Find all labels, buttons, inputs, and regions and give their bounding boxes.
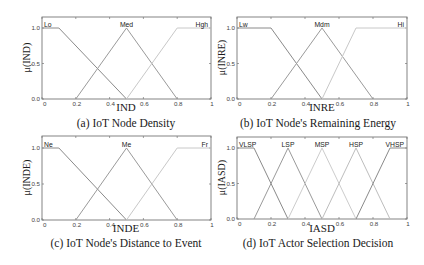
y-axis-label-c: μ(INDE) <box>21 148 32 208</box>
membership-line-vhsp <box>356 148 407 219</box>
caption-c: (c) IoT Node's Distance to Event <box>20 237 232 249</box>
series-label-vhsp: VHSP <box>385 141 404 148</box>
y-tick-label: 0.0 <box>226 215 235 222</box>
y-axis-label-a: μ(IND) <box>21 30 32 86</box>
y-axis-label-d: μ(IASD) <box>216 148 227 208</box>
x-axis-label-b: INRE <box>300 101 344 113</box>
plot-frame <box>237 137 407 219</box>
x-tick-label: 0.8 <box>370 220 379 227</box>
y-tick-label: 1.0 <box>226 144 235 151</box>
x-axis-label-c: INDE <box>104 222 148 234</box>
caption-d: (d) IoT Actor Selection Decision <box>212 237 424 249</box>
x-tick-label: 1 <box>406 220 410 227</box>
x-tick-label: 0 <box>238 220 242 227</box>
x-tick-label: 0.2 <box>268 220 277 227</box>
series-label-msp: MSP <box>315 141 330 148</box>
membership-line-vlsp <box>237 148 288 219</box>
membership-line-hsp <box>322 148 390 219</box>
series-label-hsp: HSP <box>349 141 363 148</box>
series-label-lsp: LSP <box>282 141 295 148</box>
x-axis-label-a: IND <box>106 101 146 113</box>
membership-line-msp <box>288 148 356 219</box>
series-label-vlsp: VLSP <box>239 141 257 148</box>
y-tick-label: 0.5 <box>226 180 235 187</box>
plot-svg: 00.20.40.60.810.00.51.0VLSPLSPMSPHSPVHSP <box>0 0 424 265</box>
caption-b: (b) IoT Node's Remaining Energy <box>212 117 424 129</box>
y-axis-label-b: μ(INRE) <box>216 28 227 88</box>
caption-a: (a) IoT Node Density <box>20 117 232 129</box>
x-axis-label-d: IASD <box>300 222 344 234</box>
membership-line-lsp <box>254 148 322 219</box>
